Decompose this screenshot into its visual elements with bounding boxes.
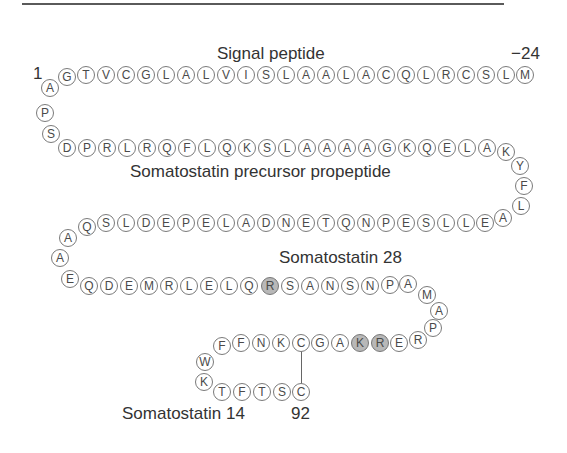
residue-circle: R bbox=[437, 66, 455, 84]
residue-circle: E bbox=[438, 139, 456, 157]
residue-circle: S bbox=[97, 214, 115, 232]
residue-circle: L bbox=[278, 139, 296, 157]
residue-circle: L bbox=[497, 66, 515, 84]
residue-circle: C bbox=[457, 66, 475, 84]
residue-circle: A bbox=[338, 139, 356, 157]
residue-circle: A bbox=[357, 66, 375, 84]
residue-circle: I bbox=[237, 66, 255, 84]
residue-circle: A bbox=[331, 334, 349, 352]
residue-circle: S bbox=[42, 125, 60, 143]
residue-circle: Q bbox=[240, 277, 258, 295]
residue-circle: L bbox=[117, 214, 135, 232]
residue-circle: D bbox=[257, 214, 275, 232]
residue-circle: M bbox=[418, 286, 436, 304]
residue-circle: S bbox=[417, 214, 435, 232]
propeptide-label: Somatostatin precursor propeptide bbox=[130, 162, 391, 182]
residue-circle: S bbox=[258, 139, 276, 157]
residue-circle: A bbox=[51, 249, 69, 267]
residue-circle: V bbox=[217, 66, 235, 84]
residue-circle: E bbox=[476, 214, 494, 232]
residue-circle: G bbox=[378, 139, 396, 157]
residue-circle: G bbox=[58, 68, 76, 86]
residue-circle: F bbox=[232, 334, 250, 352]
residue-circle: C bbox=[292, 334, 310, 352]
residue-circle: L bbox=[118, 139, 136, 157]
start-number-label: 1 bbox=[33, 64, 42, 84]
residue-circle: P bbox=[381, 276, 399, 294]
residue-circle: A bbox=[430, 302, 448, 320]
residue-circle: S bbox=[257, 66, 275, 84]
residue-circle: V bbox=[97, 66, 115, 84]
residue-circle: S bbox=[281, 277, 299, 295]
residue-circle: K bbox=[272, 334, 290, 352]
residue-circle: A bbox=[297, 66, 315, 84]
residue-circle: N bbox=[321, 277, 339, 295]
residue-circle: T bbox=[213, 383, 231, 401]
residue-circle: R bbox=[138, 139, 156, 157]
residue-circle: K bbox=[398, 139, 416, 157]
residue-circle: L bbox=[417, 66, 435, 84]
residue-circle: G bbox=[137, 66, 155, 84]
residue-circle: Y bbox=[511, 157, 529, 175]
residue-circle: N bbox=[361, 277, 379, 295]
residue-circle: A bbox=[494, 209, 512, 227]
residue-circle: A bbox=[59, 229, 77, 247]
residue-circle: P bbox=[377, 214, 395, 232]
residue-circle: A bbox=[237, 214, 255, 232]
residue-circle: T bbox=[77, 66, 95, 84]
residue-circle: P bbox=[36, 104, 54, 122]
residue-circle: Q bbox=[218, 139, 236, 157]
minus24-label: −24 bbox=[511, 44, 540, 64]
residue-circle: M bbox=[140, 277, 158, 295]
residue-circle: K bbox=[195, 373, 213, 391]
residue-circle: S bbox=[273, 383, 291, 401]
residue-circle: S bbox=[341, 277, 359, 295]
residue-circle: L bbox=[217, 214, 235, 232]
residue-circle: Q bbox=[78, 218, 96, 236]
residue-circle: L bbox=[337, 66, 355, 84]
residue-circle: L bbox=[458, 139, 476, 157]
residue-circle: N bbox=[357, 214, 375, 232]
residue-circle: A bbox=[317, 66, 335, 84]
residue-circle: K bbox=[351, 334, 369, 352]
residue-circle: E bbox=[397, 214, 415, 232]
residue-circle: W bbox=[196, 353, 214, 371]
signal-peptide-label: Signal peptide bbox=[217, 44, 325, 64]
sequence-diagram: Signal peptide −24 1 Somatostatin precur… bbox=[0, 0, 567, 453]
residue-circle: A bbox=[298, 139, 316, 157]
residue-circle: E bbox=[390, 334, 408, 352]
top-rule bbox=[22, 3, 504, 5]
residue-circle: Q bbox=[158, 139, 176, 157]
residue-circle: L bbox=[157, 66, 175, 84]
residue-circle: E bbox=[200, 277, 218, 295]
somatostatin-14-label: Somatostatin 14 bbox=[122, 404, 245, 424]
residue-circle: F bbox=[515, 177, 533, 195]
residue-circle: R bbox=[409, 331, 427, 349]
residue-circle: E bbox=[197, 214, 215, 232]
residue-circle: D bbox=[58, 139, 76, 157]
residue-circle: K bbox=[238, 139, 256, 157]
residue-circle: L bbox=[180, 277, 198, 295]
somatostatin-28-label: Somatostatin 28 bbox=[279, 248, 402, 268]
residue-circle: Q bbox=[80, 277, 98, 295]
residue-circle: R bbox=[98, 139, 116, 157]
residue-circle: C bbox=[292, 383, 310, 401]
residue-circle: L bbox=[220, 277, 238, 295]
residue-circle: R bbox=[371, 334, 389, 352]
residue-circle: P bbox=[424, 319, 442, 337]
residue-circle: K bbox=[497, 143, 515, 161]
residue-circle: L bbox=[512, 197, 530, 215]
residue-circle: A bbox=[318, 139, 336, 157]
residue-circle: A bbox=[358, 139, 376, 157]
residue-circle: D bbox=[100, 277, 118, 295]
residue-circle: E bbox=[61, 270, 79, 288]
residue-circle: Q bbox=[418, 139, 436, 157]
residue-circle: T bbox=[317, 214, 335, 232]
residue-circle: F bbox=[213, 337, 231, 355]
residue-circle: F bbox=[178, 139, 196, 157]
residue-circle: G bbox=[311, 334, 329, 352]
residue-circle: M bbox=[516, 66, 534, 84]
residue-circle: A bbox=[478, 139, 496, 157]
residue-circle: A bbox=[41, 79, 59, 97]
residue-circle: L bbox=[197, 66, 215, 84]
